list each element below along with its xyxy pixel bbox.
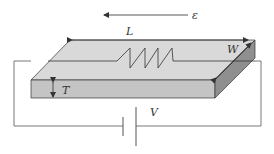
slab-front-face bbox=[31, 80, 215, 98]
battery-icon bbox=[123, 107, 136, 146]
voltage-label: V bbox=[150, 106, 159, 119]
width-label: W bbox=[227, 43, 240, 56]
strain-gauge-diagram: ε L W T V bbox=[0, 0, 274, 154]
length-label: L bbox=[125, 25, 133, 38]
strain-label: ε bbox=[192, 9, 198, 22]
diagram-canvas: ε L W T V bbox=[0, 0, 274, 154]
